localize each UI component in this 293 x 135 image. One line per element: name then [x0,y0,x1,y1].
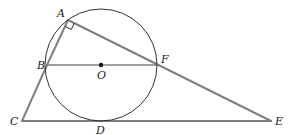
diagram-canvas: ABOFCDE [0,0,293,135]
label-point-c: C [10,115,19,128]
label-point-e: E [274,115,283,128]
label-point-a: A [56,7,65,20]
point-labels: ABOFCDE [10,7,283,135]
label-point-f: F [160,53,169,66]
center-point-o [99,63,103,67]
label-point-o: O [97,69,106,82]
segment-bc [22,65,47,121]
label-point-b: B [36,59,45,72]
label-point-d: D [95,124,105,135]
geometry-diagram: ABOFCDE [0,0,293,135]
segments [22,20,271,121]
